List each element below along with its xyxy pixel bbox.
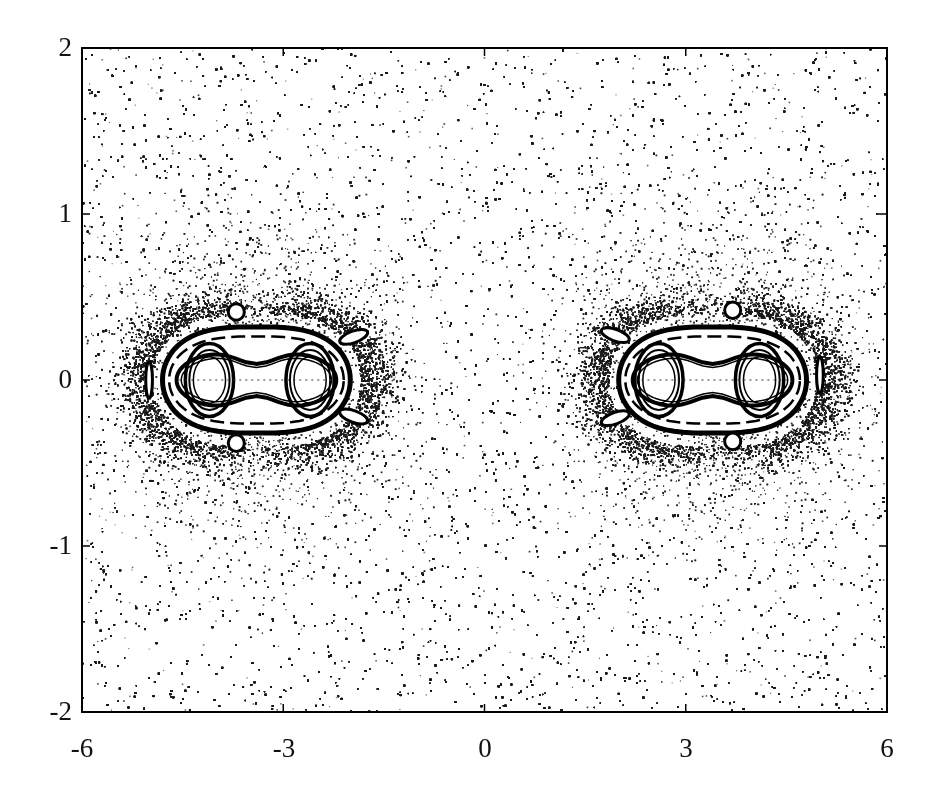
left-island-chain-satellite-island-3 bbox=[338, 326, 370, 347]
right-island-chain-outer-torus bbox=[619, 327, 807, 433]
x-tick-label-0: 0 bbox=[455, 735, 515, 762]
right-island-chain-satellite-island-0 bbox=[725, 302, 741, 319]
left-island-chain-satellite-island-0 bbox=[228, 304, 244, 321]
x-tick-label-neg3: -3 bbox=[254, 735, 314, 762]
right-island-chain-satellite-island-2 bbox=[817, 357, 824, 394]
plot-overlay bbox=[0, 0, 927, 797]
left-island-chain-outer-torus bbox=[163, 327, 351, 433]
y-tick-label-2: 2 bbox=[22, 34, 72, 61]
right-island-chain-satellite-island-4 bbox=[599, 408, 631, 429]
x-tick-label-6: 6 bbox=[857, 735, 917, 762]
right-island-chain-satellite-island-1 bbox=[725, 433, 741, 450]
left-island-chain-satellite-island-4 bbox=[338, 406, 370, 427]
left-island-chain-satellite-island-1 bbox=[228, 435, 244, 452]
x-tick-label-3: 3 bbox=[656, 735, 716, 762]
y-tick-label-0: 0 bbox=[22, 366, 72, 393]
y-tick-label-neg2: -2 bbox=[22, 698, 72, 725]
right-island-chain-satellite-island-3 bbox=[599, 325, 631, 346]
y-tick-label-1: 1 bbox=[22, 200, 72, 227]
y-tick-label-neg1: -1 bbox=[22, 532, 72, 559]
poincare-section-figure: 2 1 0 -1 -2 -6 -3 0 3 6 bbox=[0, 0, 927, 797]
left-island-chain-satellite-island-2 bbox=[146, 362, 153, 399]
x-tick-label-neg6: -6 bbox=[52, 735, 112, 762]
